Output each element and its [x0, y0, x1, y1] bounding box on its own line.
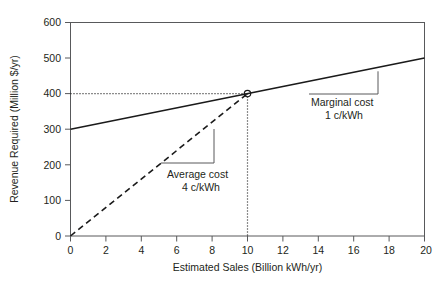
- y-tick-label-100: 100: [43, 194, 61, 206]
- x-tick-label-20: 20: [420, 244, 432, 256]
- chart-svg: 600 500 400 300 200 100 0 0 2 4 6 8 10 1…: [0, 0, 444, 282]
- y-tick-label-500: 500: [43, 52, 61, 64]
- y-tick-label-0: 0: [55, 230, 61, 242]
- x-tick-label-18: 18: [383, 244, 395, 256]
- series-average-cost: [71, 94, 248, 236]
- x-tick-label-16: 16: [348, 244, 360, 256]
- y-tick-label-300: 300: [43, 123, 61, 135]
- x-axis-title: Estimated Sales (Billion kWh/yr): [173, 261, 322, 273]
- x-tick-label-0: 0: [68, 244, 74, 256]
- chart-container: 600 500 400 300 200 100 0 0 2 4 6 8 10 1…: [0, 0, 444, 282]
- x-tick-label-14: 14: [312, 244, 324, 256]
- x-tick-label-10: 10: [242, 244, 254, 256]
- average-cost-label-line1: Average cost: [167, 168, 228, 180]
- y-tick-label-600: 600: [43, 16, 61, 28]
- y-tick-label-400: 400: [43, 87, 61, 99]
- y-axis-ticks: [65, 23, 71, 237]
- x-tick-label-12: 12: [277, 244, 289, 256]
- x-tick-label-4: 4: [138, 244, 144, 256]
- y-tick-label-200: 200: [43, 159, 61, 171]
- x-axis-ticks: [71, 236, 425, 242]
- average-cost-leader: [161, 129, 214, 163]
- x-tick-label-8: 8: [209, 244, 215, 256]
- average-cost-label-line2: 4 c/kWh: [182, 181, 220, 193]
- y-axis-title: Revenue Required (Million $/yr): [8, 55, 20, 203]
- marginal-cost-label-line1: Marginal cost: [311, 96, 374, 108]
- x-tick-label-2: 2: [103, 244, 109, 256]
- marginal-cost-label-line2: 1 c/kWh: [325, 109, 363, 121]
- x-tick-label-6: 6: [174, 244, 180, 256]
- plot-frame: [71, 23, 425, 237]
